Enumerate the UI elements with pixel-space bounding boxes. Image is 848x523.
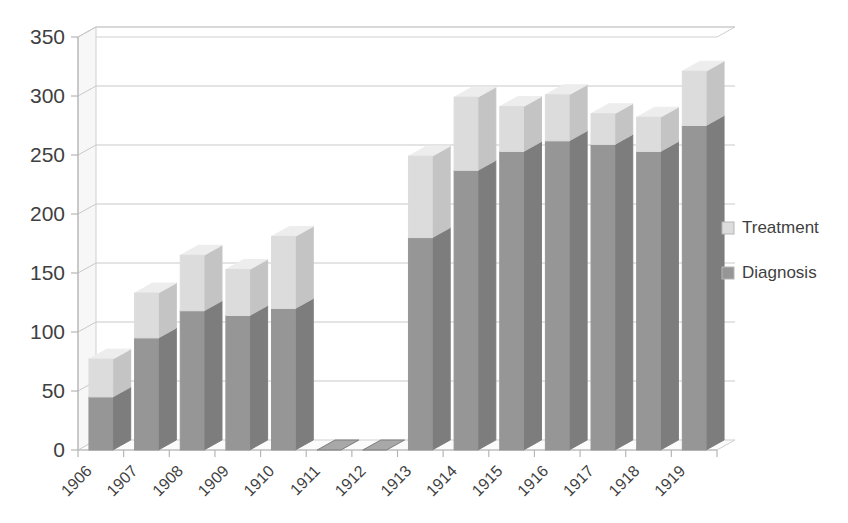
x-category-label: 1910 [240, 462, 277, 499]
legend-label: Treatment [742, 218, 819, 237]
bar-segment-diagnosis [226, 305, 268, 450]
chart-legend: TreatmentDiagnosis [722, 218, 819, 282]
bars-group [89, 61, 724, 450]
bar-segment-treatment [180, 245, 222, 310]
x-category-label: 1909 [195, 462, 232, 499]
bar-segment-treatment [408, 146, 450, 237]
y-tick-label: 100 [30, 320, 65, 343]
bar-segment-diagnosis [591, 134, 633, 450]
x-category-label: 1913 [377, 462, 414, 499]
x-category-label: 1908 [149, 462, 186, 499]
bar-segment-treatment [637, 107, 679, 151]
x-category-label: 1917 [560, 462, 597, 499]
bar-segment-diagnosis [408, 228, 450, 450]
bar-segment-treatment [591, 104, 633, 145]
bar-segment-treatment [226, 259, 268, 315]
bar-segment-diagnosis [545, 131, 587, 450]
x-category-label: 1911 [287, 462, 323, 498]
bar-segment-diagnosis [272, 298, 314, 450]
x-category-label: 1914 [423, 462, 460, 499]
bar-segment-diagnosis [180, 301, 222, 450]
bar-segment-diagnosis [454, 160, 496, 450]
y-axis-tick-labels: 050100150200250300350 [30, 25, 65, 461]
x-category-label: 1912 [332, 462, 369, 499]
x-axis [78, 450, 717, 457]
bar-segment-treatment [135, 283, 177, 338]
x-axis-category-labels: 1906190719081909191019111912191319141915… [58, 462, 689, 499]
y-tick-label: 50 [42, 379, 65, 402]
x-category-label: 1918 [605, 462, 642, 499]
y-tick-label: 250 [30, 143, 65, 166]
y-axis [71, 37, 78, 450]
bar-segment-treatment [454, 87, 496, 170]
x-category-label: 1906 [58, 462, 95, 499]
bar-segment-diagnosis [637, 141, 679, 450]
y-tick-label: 350 [30, 25, 65, 48]
legend-swatch [722, 222, 734, 234]
y-tick-label: 200 [30, 202, 65, 225]
x-category-label: 1915 [469, 462, 506, 499]
stacked-column-chart: 050100150200250300350 190619071908190919… [0, 0, 848, 523]
x-category-label: 1916 [514, 462, 551, 499]
x-category-label: 1919 [651, 462, 688, 499]
bar-segment-treatment [500, 97, 542, 152]
y-tick-label: 150 [30, 261, 65, 284]
bar-segment-treatment [545, 85, 587, 141]
y-tick-label: 300 [30, 84, 65, 107]
legend-label: Diagnosis [742, 263, 817, 282]
chart-container: 050100150200250300350 190619071908190919… [0, 0, 848, 523]
bar-segment-diagnosis [500, 141, 542, 450]
bar-segment-treatment [272, 226, 314, 308]
bar-segment-diagnosis [682, 116, 724, 451]
bar-segment-treatment [682, 61, 724, 125]
y-tick-label: 0 [53, 438, 65, 461]
bar-segment-diagnosis [135, 328, 177, 450]
legend-swatch [722, 267, 734, 279]
x-category-label: 1907 [103, 462, 140, 499]
bar-segment-treatment [89, 349, 131, 397]
